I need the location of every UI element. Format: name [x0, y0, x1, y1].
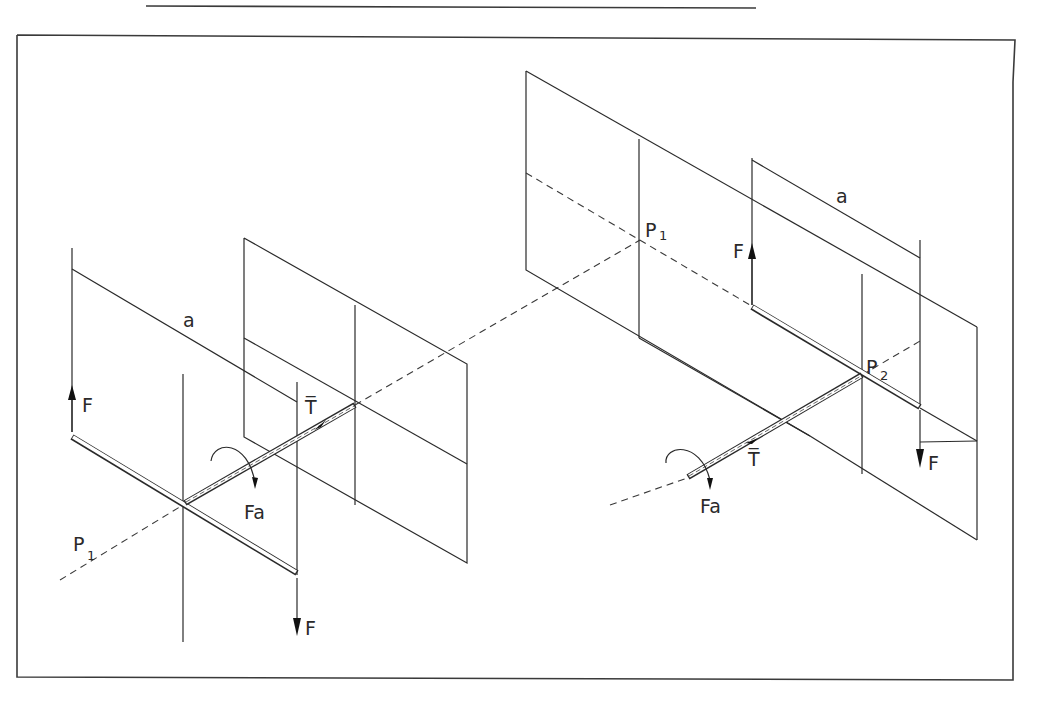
- left-label-lever-arm: a: [183, 309, 195, 331]
- right-label-force-down: F: [928, 452, 939, 474]
- left-label-force-up: F: [82, 394, 93, 416]
- right-label-moment: Fa: [700, 495, 721, 517]
- right-label-force-up: F: [733, 240, 744, 262]
- right-force-down-arrow: [916, 449, 924, 468]
- left-label-torque: T̅: [304, 395, 317, 418]
- right-centreline-tail: [610, 477, 690, 505]
- right-label-point-1-sub: 1: [659, 228, 667, 243]
- left-back-plate: [244, 238, 467, 563]
- right-dimension-lines: [752, 158, 977, 441]
- left-dimension-lines: [72, 248, 297, 642]
- mechanics-diagram: F F a T̅ Fa P 1: [0, 0, 1042, 705]
- right-label-lever-arm: a: [836, 185, 848, 207]
- left-shaft: [185, 405, 355, 503]
- left-label-point: P: [73, 533, 84, 555]
- main-centreline: [355, 240, 640, 405]
- left-assembly: F F a T̅ Fa P 1: [60, 238, 640, 642]
- right-assembly: F F a T̅ Fa P 1 P 2: [526, 71, 977, 540]
- left-label-moment: Fa: [244, 501, 265, 523]
- right-plane-dash-1: [526, 173, 750, 305]
- right-label-point-1: P: [645, 219, 656, 241]
- right-force-up-arrow: [748, 243, 756, 259]
- top-rule: [146, 6, 756, 8]
- right-label-point-2: P: [866, 356, 877, 378]
- left-label-force-down: F: [305, 617, 316, 639]
- right-label-torque: T̅: [747, 447, 760, 470]
- right-label-point-2-sub: 2: [880, 368, 888, 383]
- left-force-up-arrow: [68, 385, 76, 400]
- right-shaft: [688, 375, 862, 477]
- left-label-point-sub: 1: [87, 548, 95, 563]
- left-force-down-arrow: [293, 618, 301, 636]
